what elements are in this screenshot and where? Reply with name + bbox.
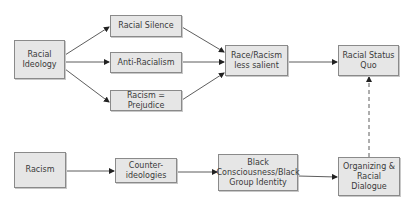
node-racial-silence: Racial Silence [110,15,182,37]
node-label: Racism = Prejudice [113,91,179,111]
node-race-racism-less-salient: Race/Racism less salient [225,45,288,76]
node-label: Counter- ideologies [126,161,167,181]
node-black-consciousness: Black Consciousness/Black Group Identity [218,154,298,191]
node-racial-ideology: Racial Ideology [14,40,65,79]
node-label: Racial Status Quo [342,51,394,71]
node-racism: Racism [14,152,66,188]
edge-consciousness-organizing [298,176,337,177]
edge-ideology-prejudice [65,69,109,102]
node-label: Anti-Racialism [117,58,174,68]
edge-ideology-silence [65,27,109,55]
node-label: Racial Ideology [22,50,56,70]
node-label: Racial Silence [118,21,173,31]
node-racial-status-quo: Racial Status Quo [338,45,399,76]
node-counter-ideologies: Counter- ideologies [115,158,177,183]
node-racism-equals-prejudice: Racism = Prejudice [110,90,182,111]
node-label: Organizing & Racial Dialogue [341,162,397,192]
node-label: Black Consciousness/Black Group Identity [216,158,299,188]
node-organizing-racial-dialogue: Organizing & Racial Dialogue [338,157,400,196]
node-anti-racialism: Anti-Racialism [110,52,182,73]
edge-silence-salient [182,27,224,52]
edge-prejudice-salient [182,73,224,100]
node-label: Race/Racism less salient [231,51,282,71]
node-label: Racism [26,165,55,175]
